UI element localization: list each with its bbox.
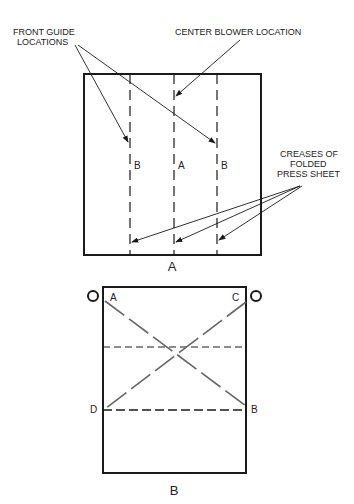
crease-arrow-2 xyxy=(176,186,300,242)
corner-label-c: C xyxy=(232,292,239,303)
front-guide-label-2: LOCATIONS xyxy=(17,37,68,47)
corner-label-b: B xyxy=(251,404,258,415)
press-sheet-a xyxy=(84,74,261,255)
corner-label-a: A xyxy=(110,292,117,303)
creases-label-2: FOLDED xyxy=(290,159,327,169)
diagram-canvas: FRONT GUIDE LOCATIONS CENTER BLOWER LOCA… xyxy=(0,0,354,504)
diagonal-a-b xyxy=(105,301,246,406)
center-blower-label: CENTER BLOWER LOCATION xyxy=(175,27,301,37)
crease-arrow-1 xyxy=(132,186,300,242)
front-guide-label-1: FRONT GUIDE xyxy=(13,27,75,37)
figure-b-caption: B xyxy=(170,483,179,498)
corner-label-d: D xyxy=(90,404,97,415)
hole-left-icon xyxy=(88,291,98,301)
center-blower-arrow xyxy=(176,40,240,96)
diagonal-c-d xyxy=(106,302,246,408)
crease-label-a: A xyxy=(178,160,185,171)
creases-label-3: PRESS SHEET xyxy=(277,169,341,179)
hole-right-icon xyxy=(251,291,261,301)
front-guide-arrow-right xyxy=(78,45,215,143)
figure-a-caption: A xyxy=(168,259,177,274)
crease-label-b-left: B xyxy=(134,160,141,171)
creases-label-1: CREASES OF xyxy=(280,149,339,159)
figure-b: A C D B B xyxy=(88,287,261,498)
crease-label-b-right: B xyxy=(221,160,228,171)
figure-a: FRONT GUIDE LOCATIONS CENTER BLOWER LOCA… xyxy=(13,27,341,274)
front-guide-arrow-left xyxy=(75,45,128,142)
